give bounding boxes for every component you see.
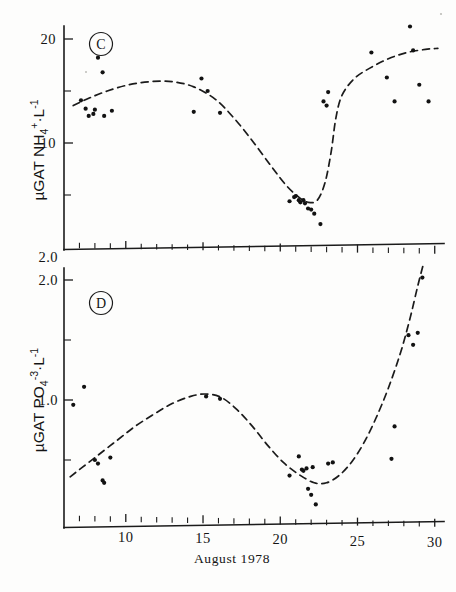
panel-c-data-point (91, 112, 95, 116)
panel-d-data-point (96, 462, 100, 466)
panel-d-data-point (93, 458, 97, 462)
panel-c-data-point (309, 207, 313, 211)
panel-d-ytick-label-2: 2.0 (38, 272, 58, 288)
panel-c-data-point (321, 99, 325, 103)
x-tick-label-25: 25 (350, 533, 366, 549)
figure-root: 20 10 2.0 C µGAT NH4+·L-1 (0, 0, 456, 592)
panel-d-data-point (416, 331, 420, 335)
panel-c-ylabel-exp: -1 (28, 99, 40, 108)
panel-c: 20 10 2.0 C µGAT NH4+·L-1 (28, 24, 444, 265)
panel-d-ylabel-mid: ·L (30, 357, 47, 371)
panel-c-data-point (96, 56, 100, 60)
panel-c-data-point (303, 201, 307, 205)
x-tick-label-20: 20 (273, 531, 289, 547)
panel-d-letter: D (96, 296, 106, 311)
panel-d-data-point (392, 424, 396, 428)
panel-d-data-point (314, 502, 318, 506)
panel-d-data-point (108, 456, 112, 460)
panel-c-x-ticks (79, 241, 434, 254)
panel-d-ylabel-exp: -1 (28, 348, 40, 357)
panel-c-data-point (326, 90, 330, 94)
x-tick-label-30: 30 (427, 534, 443, 550)
panel-d-data-point (204, 394, 208, 398)
svg-text:µGAT NH4+·L-1: µGAT NH4+·L-1 (28, 99, 50, 200)
panel-d-data-point (406, 333, 410, 337)
panel-c-data-point (369, 50, 373, 54)
panel-c-data-point (110, 109, 114, 113)
panel-d-y-ticks (64, 280, 73, 460)
panel-d-data-point (389, 457, 393, 461)
panel-d-data-point (306, 487, 310, 491)
panel-c-data-point (206, 89, 210, 93)
panel-c-data-point (294, 194, 298, 198)
panel-d-data-point (297, 454, 301, 458)
panel-d-ylabel-prefix: µGAT PO (30, 386, 47, 452)
panel-c-ylabel-prefix: µGAT NH (30, 135, 47, 201)
panel-d-data-point (82, 385, 86, 389)
panel-d-data-point (326, 462, 330, 466)
panel-c-ytick-label-bottom: 2.0 (38, 249, 58, 265)
panel-c-y-ticks (64, 39, 73, 195)
panel-d-y-axis-title: µGAT PO4-3·L-1 (28, 348, 50, 453)
panel-c-data-point (79, 98, 83, 102)
panel-c-x-axis (64, 244, 444, 250)
panel-c-data-points (79, 24, 431, 226)
panel-d-data-point (304, 466, 308, 470)
panel-c-data-point (426, 99, 430, 103)
panel-c-data-point (417, 83, 421, 87)
panel-c-data-point (287, 199, 291, 203)
x-axis-caption: August 1978 (194, 551, 270, 566)
panel-c-data-point (101, 70, 105, 74)
panel-c-data-point (325, 103, 329, 107)
panel-c-ytick-label-20: 20 (41, 31, 57, 47)
panel-c-data-point (199, 76, 203, 80)
panel-c-y-axis-title: µGAT NH4+·L-1 (28, 99, 50, 200)
panel-d-data-point (102, 481, 106, 485)
panel-c-data-point (87, 114, 91, 118)
panel-c-data-point (192, 110, 196, 114)
panel-c-data-point (102, 114, 106, 118)
x-tick-label-10: 10 (118, 529, 134, 545)
panel-c-ylabel-mid: ·L (30, 108, 47, 122)
panel-d-fit-curve (70, 262, 424, 484)
panel-d-data-point (287, 474, 291, 478)
panel-d-ylabel-charge: -3 (28, 371, 40, 380)
panel-c-data-point (218, 111, 222, 115)
panel-c-data-point (385, 75, 389, 79)
panel-d-x-axis (64, 522, 444, 528)
panel-d-data-point (331, 460, 335, 464)
scan-speck (85, 71, 87, 73)
panel-d-data-point (309, 493, 313, 497)
panel-c-data-point (312, 212, 316, 216)
panel-c-letter: C (96, 37, 105, 52)
panel-c-data-point (84, 107, 88, 111)
svg-text:µGAT PO4-3·L-1: µGAT PO4-3·L-1 (28, 348, 50, 453)
scan-speck (440, 13, 442, 15)
panel-c-data-point (408, 24, 412, 28)
panel-d-data-point (311, 465, 315, 469)
panel-c-fit-curve (73, 48, 438, 202)
panel-d-data-point (71, 403, 75, 407)
figure-canvas: 20 10 2.0 C µGAT NH4+·L-1 (0, 0, 456, 592)
panel-d-data-point (420, 276, 424, 280)
panel-d-data-points (71, 276, 424, 507)
panel-d-data-point (411, 343, 415, 347)
panel-d-data-point (218, 397, 222, 401)
panel-c-data-point (318, 222, 322, 226)
panel-c-data-point (411, 48, 415, 52)
panel-d-x-tick-labels: 1015202530 (118, 529, 442, 550)
panel-c-data-point (93, 108, 97, 112)
panel-d: 2.0 1.0 D µGAT PO4-3·L-1 1015202530 (28, 262, 444, 550)
x-tick-label-15: 15 (195, 530, 211, 546)
panel-c-data-point (392, 99, 396, 103)
